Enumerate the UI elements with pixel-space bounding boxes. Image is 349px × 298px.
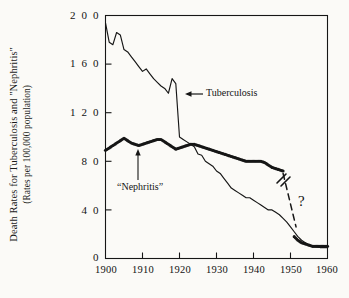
plot-frame — [106, 16, 328, 259]
tuberculosis-arrow-icon — [185, 91, 203, 97]
question-mark-annotation: ? — [298, 193, 305, 210]
chart-figure: Death Rates for Tuberculosis and "Nephri… — [0, 0, 349, 298]
nephritis-arrow-icon — [135, 149, 140, 180]
y-tick-marks — [106, 64, 112, 210]
axis-break-marks — [277, 174, 290, 186]
tuberculosis-series-label: Tuberculosis — [206, 87, 257, 98]
series-tuberculosis — [106, 23, 328, 248]
x-tick-marks — [143, 253, 291, 259]
plot-area — [0, 0, 349, 298]
nephritis-series-label: “Nephritis” — [117, 181, 163, 192]
